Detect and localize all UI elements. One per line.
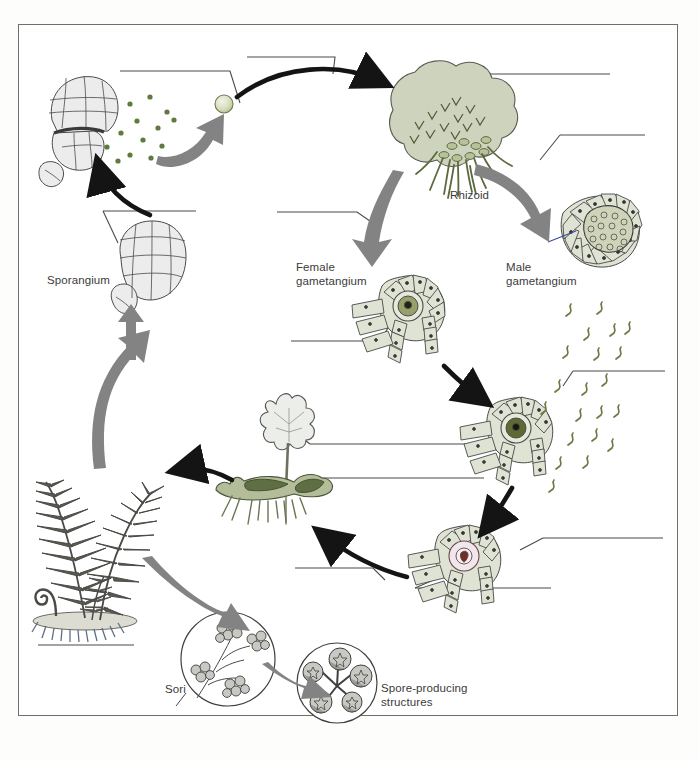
diagram-frame bbox=[18, 24, 678, 716]
label-sori: Sori bbox=[165, 683, 186, 697]
figure-page: Sporangium Rhizoid Female gametangium Ma… bbox=[0, 0, 699, 760]
label-female-gametangium: Female gametangium bbox=[296, 261, 367, 288]
label-sporangium: Sporangium bbox=[47, 274, 110, 288]
label-spore-producing-structures: Spore-producing structures bbox=[381, 682, 468, 709]
label-rhizoid: Rhizoid bbox=[450, 189, 489, 203]
label-male-gametangium: Male gametangium bbox=[506, 261, 577, 288]
